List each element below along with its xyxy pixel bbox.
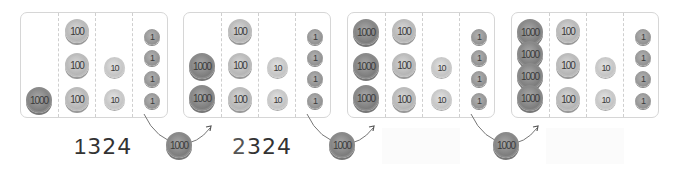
number-label-2: 2324 (232, 134, 292, 159)
coin-1: 1 (635, 50, 651, 66)
answer-placeholder-3 (382, 128, 460, 164)
place-value-box-4: 1000 1000 1000 1000 100 100 100 10 10 1 … (511, 12, 659, 118)
number-digits-rest: 324 (247, 134, 292, 159)
coin-100: 100 (65, 87, 89, 111)
tens-column: 10 10 (95, 13, 133, 117)
coin-1000: 1000 (166, 132, 192, 158)
coin-100: 100 (556, 87, 580, 111)
number-digit-thousands: 2 (232, 134, 247, 159)
transition-arrow-1: 1000 (140, 112, 220, 162)
coin-1: 1 (635, 93, 651, 109)
coin-1000: 1000 (493, 132, 519, 158)
coin-10: 10 (267, 57, 288, 78)
thousands-column: 1000 1000 1000 1000 (512, 13, 549, 117)
coin-100: 100 (228, 87, 252, 111)
coin-1: 1 (471, 93, 487, 109)
coin-10: 10 (104, 89, 125, 110)
place-value-box-2: 1000 1000 100 100 100 10 10 1 1 1 1 (183, 12, 331, 118)
place-value-box-3: 1000 1000 1000 100 100 100 10 10 1 1 1 1 (347, 12, 495, 118)
coin-10: 10 (267, 89, 288, 110)
coin-1000: 1000 (517, 85, 543, 111)
coin-1: 1 (471, 50, 487, 66)
coin-100: 100 (392, 87, 416, 111)
coin-1: 1 (635, 71, 651, 87)
coin-1: 1 (307, 93, 323, 109)
thousands-column: 1000 1000 1000 (348, 13, 385, 117)
ones-column: 1 1 1 1 (132, 13, 170, 117)
coin-1: 1 (144, 29, 160, 45)
coin-1000: 1000 (26, 87, 52, 113)
coin-1: 1 (144, 50, 160, 66)
coin-100: 100 (392, 19, 416, 43)
transition-arrow-2: 1000 (303, 112, 383, 162)
coin-1: 1 (307, 29, 323, 45)
hundreds-column: 100 100 100 (221, 13, 259, 117)
coin-10: 10 (595, 89, 616, 110)
ones-column: 1 1 1 1 (295, 13, 333, 117)
coin-100: 100 (392, 53, 416, 77)
coin-100: 100 (556, 19, 580, 43)
coin-100: 100 (228, 19, 252, 43)
transition-arrow-3: 1000 (467, 112, 547, 162)
coin-1: 1 (307, 50, 323, 66)
coin-1: 1 (471, 29, 487, 45)
coin-1000: 1000 (353, 53, 379, 79)
hundreds-column: 100 100 100 (385, 13, 423, 117)
coin-1: 1 (471, 71, 487, 87)
thousands-column: 1000 1000 (184, 13, 221, 117)
tens-column: 10 10 (258, 13, 296, 117)
coin-100: 100 (556, 53, 580, 77)
tens-column: 10 10 (422, 13, 460, 117)
answer-placeholder-4 (546, 128, 624, 164)
coin-1000: 1000 (353, 19, 379, 45)
coin-100: 100 (65, 19, 89, 43)
coin-1000: 1000 (353, 85, 379, 111)
coin-1000: 1000 (329, 132, 355, 158)
hundreds-column: 100 100 100 (58, 13, 96, 117)
coin-1: 1 (635, 29, 651, 45)
coin-100: 100 (228, 53, 252, 77)
number-label-1: 1324 (74, 134, 132, 160)
coin-10: 10 (431, 89, 452, 110)
coin-1: 1 (144, 71, 160, 87)
hundreds-column: 100 100 100 (549, 13, 587, 117)
coin-1000: 1000 (189, 85, 215, 111)
coin-10: 10 (595, 57, 616, 78)
coin-1: 1 (144, 93, 160, 109)
number-digit-thousands: 1 (74, 134, 87, 159)
place-value-box-1: 1000 100 100 100 10 10 1 1 1 1 (20, 12, 168, 118)
number-digits-rest: 324 (87, 134, 132, 159)
ones-column: 1 1 1 1 (459, 13, 497, 117)
coin-10: 10 (104, 57, 125, 78)
coin-100: 100 (65, 53, 89, 77)
coin-10: 10 (431, 57, 452, 78)
tens-column: 10 10 (586, 13, 624, 117)
ones-column: 1 1 1 1 (623, 13, 661, 117)
coin-1: 1 (307, 71, 323, 87)
coin-1000: 1000 (189, 53, 215, 79)
thousands-column: 1000 (21, 13, 58, 117)
